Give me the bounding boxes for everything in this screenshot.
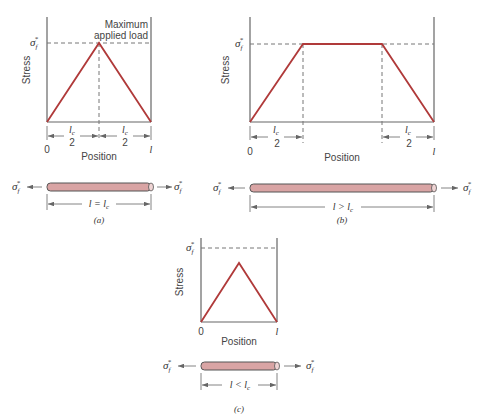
fiber [250, 184, 434, 192]
fiber [201, 362, 277, 370]
annotation-line-1: Maximum [105, 19, 148, 30]
y-axis-label: Stress [21, 56, 32, 84]
half-length-denominator: 2 [69, 137, 75, 148]
panel-caption: (a) [94, 215, 105, 225]
y-axis-label: Stress [220, 56, 231, 84]
sigma-label: σf* [30, 35, 38, 51]
x-axis-label: Position [324, 152, 360, 163]
tick-end: l [276, 326, 279, 337]
half-length-denominator: 2 [274, 138, 280, 149]
tick-start: 0 [247, 146, 253, 157]
stress-profile-curve [250, 44, 434, 122]
x-axis-label: Position [81, 151, 117, 162]
sigma-label: σf* [186, 240, 194, 256]
panel-b: Stress σf* lc 2 lc 2 0 l Position σf* σf… [213, 17, 471, 225]
panel-caption: (b) [337, 215, 348, 225]
half-length-denominator: 2 [122, 137, 128, 148]
stress-position-diagram: Stress σf* Maximum applied load lc 2 lc … [0, 0, 490, 419]
panel-c: Stress σf* 0 l Position σf* σf* l < lc (… [163, 238, 314, 414]
sigma-right: σf* [174, 179, 182, 195]
stress-profile-curve [47, 43, 151, 122]
tick-end: l [150, 144, 153, 155]
sigma-left: σf* [213, 180, 221, 196]
fiber [47, 183, 151, 191]
sigma-right: σf* [306, 358, 314, 374]
sigma-label: σf* [235, 36, 243, 52]
sigma-left: σf* [163, 358, 171, 374]
x-axis-label: Position [221, 336, 257, 347]
tick-start: 0 [198, 326, 204, 337]
sigma-left: σf* [12, 179, 20, 195]
half-length-denominator: 2 [406, 138, 412, 149]
y-axis-label: Stress [174, 268, 185, 296]
panel-a: Stress σf* Maximum applied load lc 2 lc … [12, 17, 182, 225]
annotation-line-2: applied load [94, 30, 148, 41]
tick-end: l [433, 146, 436, 157]
sigma-right: σf* [463, 180, 471, 196]
panel-caption: (c) [234, 404, 244, 414]
stress-profile-curve [201, 263, 277, 322]
tick-start: 0 [44, 144, 50, 155]
